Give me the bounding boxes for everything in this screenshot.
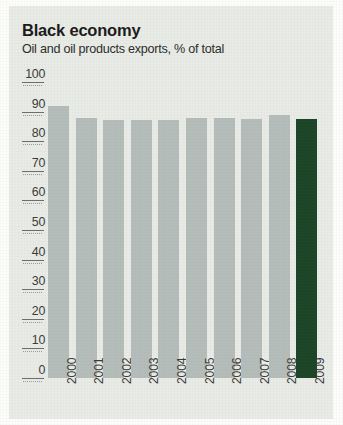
y-axis-tick-mark <box>22 289 44 290</box>
bar-2000 <box>48 106 69 378</box>
bar-2003 <box>131 120 152 378</box>
y-axis-tick-label: 0 <box>20 363 45 377</box>
y-axis-tick-minor <box>23 381 42 382</box>
y-axis-tick-mark <box>22 171 44 172</box>
y-axis-tick-minor <box>23 115 42 116</box>
y-axis-tick-mark <box>22 378 44 379</box>
y-axis-tick-minor <box>23 203 42 204</box>
y-axis-tick-label: 70 <box>20 156 45 170</box>
y-axis-tick-label: 90 <box>20 97 45 111</box>
x-axis-label-2009: 2009 <box>313 358 327 384</box>
y-axis-tick-minor <box>23 174 42 175</box>
bar-2007 <box>241 119 262 378</box>
bar-2006 <box>214 118 235 378</box>
bar-2009 <box>296 119 317 378</box>
y-axis-tick-minor <box>23 263 42 264</box>
bar-2004 <box>158 120 179 378</box>
y-axis-tick-minor <box>23 144 42 145</box>
y-axis-tick-mark <box>22 319 44 320</box>
y-axis-tick-label: 60 <box>20 185 45 199</box>
y-axis-tick-label: 80 <box>20 126 45 140</box>
y-axis-tick-mark <box>22 112 44 113</box>
y-axis-tick-mark <box>22 348 44 349</box>
bar-2005 <box>186 118 207 378</box>
y-axis-tick-mark <box>22 230 44 231</box>
plot-area: 0102030405060708090100200020012002200320… <box>0 0 343 425</box>
y-axis-tick-label: 30 <box>20 274 45 288</box>
y-axis-tick-label: 50 <box>20 215 45 229</box>
y-axis-tick-minor <box>23 351 42 352</box>
y-axis-tick-mark <box>22 200 44 201</box>
y-axis-tick-minor <box>23 322 42 323</box>
y-axis-tick-label: 10 <box>20 333 45 347</box>
y-axis-tick-label: 40 <box>20 245 45 259</box>
chart-figure: Black economy Oil and oil products expor… <box>0 0 343 425</box>
y-axis-tick-label: 100 <box>20 67 45 81</box>
y-axis-tick-minor <box>23 233 42 234</box>
y-axis-tick-mark <box>22 260 44 261</box>
y-axis-tick-minor <box>23 85 42 86</box>
bar-2008 <box>269 115 290 378</box>
y-axis-tick-minor <box>23 292 42 293</box>
bar-2001 <box>76 118 97 378</box>
y-axis-tick-label: 20 <box>20 304 45 318</box>
bar-2002 <box>103 120 124 378</box>
y-axis-tick-mark <box>22 82 44 83</box>
y-axis-tick-mark <box>22 141 44 142</box>
